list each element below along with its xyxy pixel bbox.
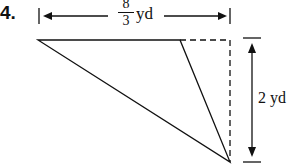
triangle-diagram — [0, 0, 304, 166]
triangle — [38, 40, 230, 162]
width-unit: yd — [136, 4, 153, 24]
fraction-numerator: 8 — [118, 0, 134, 11]
fraction-denominator: 3 — [118, 14, 134, 28]
width-dimension — [39, 8, 230, 24]
width-fraction: 8 3 — [118, 0, 134, 28]
height-label: 2 yd — [258, 89, 286, 107]
